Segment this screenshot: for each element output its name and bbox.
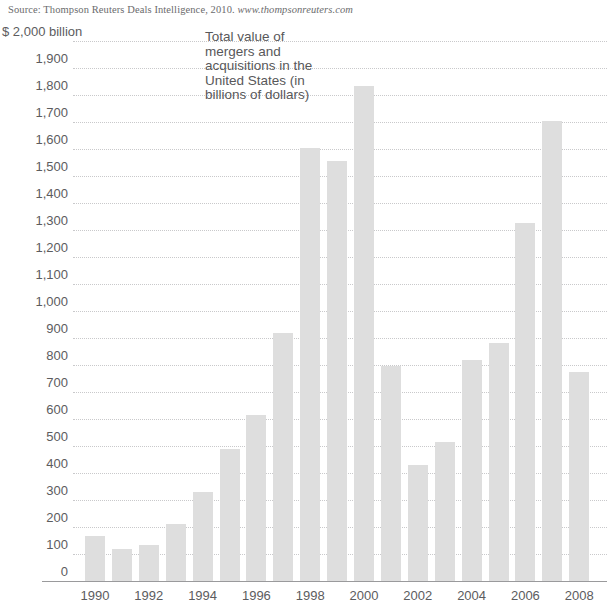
y-axis-labels: $ 2,000 billion1,9001,8001,7001,6001,500… [0, 0, 68, 615]
bar-1996 [246, 415, 266, 581]
x-tick-label-2004: 2004 [442, 588, 502, 603]
bar-1994 [193, 492, 213, 581]
bar-2007 [542, 121, 562, 581]
x-tick-label-2006: 2006 [495, 588, 555, 603]
annotation-line-4: United States (in [205, 74, 337, 89]
bar-2001 [381, 366, 401, 581]
y-tick-label-1700: 1,700 [2, 106, 68, 119]
bar-1998 [300, 148, 320, 581]
bar-series [73, 41, 607, 581]
bar-2003 [435, 442, 455, 581]
y-tick-label-600: 600 [2, 403, 68, 416]
x-axis-labels: 1990199219941996199820002002200420062008 [73, 588, 613, 610]
y-tick-label-0: 0 [2, 565, 68, 578]
x-tick-label-2000: 2000 [334, 588, 394, 603]
x-tick-label-1996: 1996 [226, 588, 286, 603]
bar-1992 [139, 545, 159, 581]
y-tick-label-1300: 1,300 [2, 214, 68, 227]
annotation-line-3: acquisitions in the [205, 59, 337, 74]
y-tick-label-1100: 1,100 [2, 268, 68, 281]
y-tick-label-2000: $ 2,000 billion [2, 25, 102, 38]
bar-1995 [220, 449, 240, 581]
bar-2008 [569, 372, 589, 581]
chart-page: Source: Thompson Reuters Deals Intellige… [0, 0, 615, 615]
x-tick-label-1990: 1990 [65, 588, 125, 603]
y-tick-label-1600: 1,600 [2, 133, 68, 146]
y-tick-label-1200: 1,200 [2, 241, 68, 254]
bar-2000 [354, 86, 374, 581]
y-tick-label-1500: 1,500 [2, 160, 68, 173]
bar-2002 [408, 465, 428, 581]
annotation-line-1: Total value of [205, 30, 337, 45]
y-tick-label-1000: 1,000 [2, 295, 68, 308]
y-tick-label-1800: 1,800 [2, 79, 68, 92]
annotation-line-5: billions of dollars) [205, 88, 337, 103]
bar-1997 [273, 333, 293, 581]
bar-2005 [489, 343, 509, 581]
x-tick-label-1992: 1992 [119, 588, 179, 603]
bar-1990 [85, 536, 105, 581]
y-tick-label-500: 500 [2, 430, 68, 443]
y-tick-label-100: 100 [2, 538, 68, 551]
x-axis-line [42, 581, 607, 582]
y-tick-label-900: 900 [2, 322, 68, 335]
chart-annotation: Total value ofmergers andacquisitions in… [205, 30, 337, 103]
x-tick-label-2002: 2002 [388, 588, 448, 603]
bar-1991 [112, 549, 132, 581]
bar-2006 [515, 223, 535, 581]
x-tick-label-2008: 2008 [549, 588, 609, 603]
y-tick-label-700: 700 [2, 376, 68, 389]
x-tick-label-1998: 1998 [280, 588, 340, 603]
bar-2004 [462, 360, 482, 581]
x-tick-label-1994: 1994 [173, 588, 233, 603]
y-tick-label-800: 800 [2, 349, 68, 362]
y-tick-label-200: 200 [2, 511, 68, 524]
y-tick-label-300: 300 [2, 484, 68, 497]
y-tick-label-1400: 1,400 [2, 187, 68, 200]
source-url: www.thompsonreuters.com [237, 4, 352, 15]
y-tick-label-400: 400 [2, 457, 68, 470]
y-tick-label-1900: 1,900 [2, 52, 68, 65]
annotation-line-2: mergers and [205, 45, 337, 60]
bar-1999 [327, 161, 347, 581]
bar-1993 [166, 524, 186, 581]
